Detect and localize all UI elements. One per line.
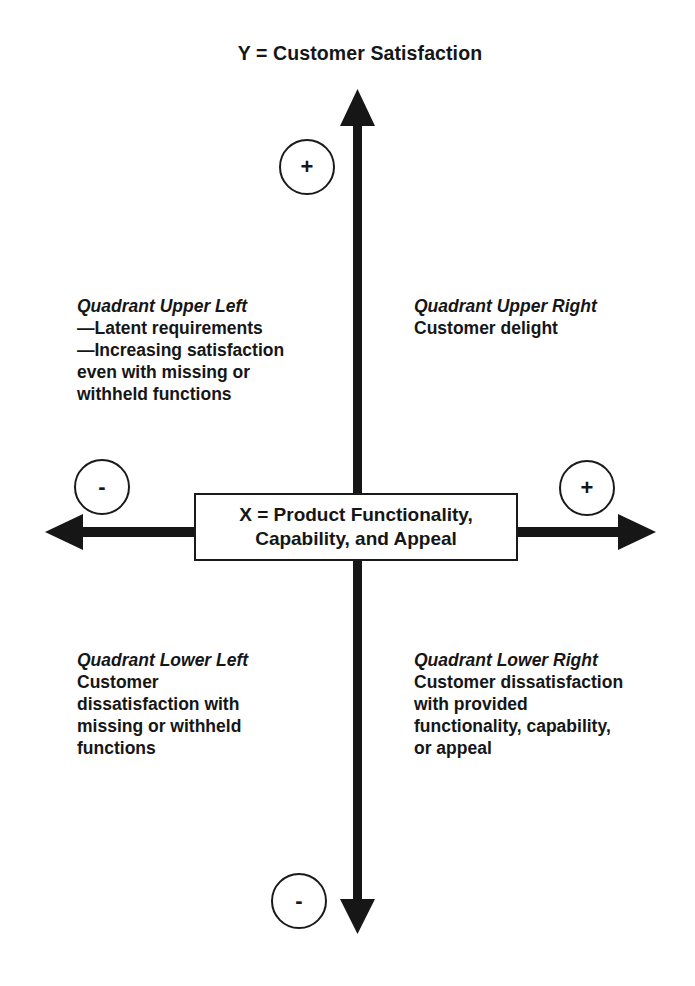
minus-sign-left-icon: - [74,459,130,515]
quadrant-lower-left-line: functions [77,737,248,759]
quadrant-upper-left-line: —Increasing satisfaction [77,339,284,361]
quadrant-upper-right-title: Quadrant Upper Right [414,295,597,317]
quadrant-lower-left-line: missing or withheld [77,715,248,737]
quadrant-lower-left-line: dissatisfaction with [77,693,248,715]
quadrant-lower-right-line: functionality, capability, [414,715,623,737]
quadrant-lower-left-line: Customer [77,671,248,693]
minus-sign-bottom-icon: - [271,873,327,929]
x-axis-right-arrow-icon [618,514,656,550]
quadrant-upper-left-title: Quadrant Upper Left [77,295,284,317]
quadrant-upper-right: Quadrant Upper Right Customer delight [414,295,597,339]
plus-sign-right-icon: + [559,460,615,516]
sign-bottom-label: - [295,888,302,914]
quadrant-upper-left-line: withheld functions [77,383,284,405]
quadrant-upper-left: Quadrant Upper Left —Latent requirements… [77,295,284,405]
quadrant-upper-left-line: even with missing or [77,361,284,383]
quadrant-lower-left: Quadrant Lower Left Customer dissatisfac… [77,649,248,759]
quadrant-lower-left-title: Quadrant Lower Left [77,649,248,671]
y-axis-title: Y = Customer Satisfaction [0,42,695,65]
y-axis-up-arrow-icon [340,89,375,126]
sign-right-label: + [581,475,594,501]
x-axis-label-line-1: X = Product Functionality, [239,503,472,527]
y-axis-down-arrow-icon [340,899,375,934]
quadrant-lower-right-line: or appeal [414,737,623,759]
quadrant-lower-right-title: Quadrant Lower Right [414,649,623,671]
sign-top-label: + [301,154,314,180]
x-axis-label-box: X = Product Functionality, Capability, a… [194,493,518,561]
quadrant-upper-right-line: Customer delight [414,317,597,339]
quadrant-lower-right-line: with provided [414,693,623,715]
x-axis-label-line-2: Capability, and Appeal [239,527,472,551]
sign-left-label: - [98,474,105,500]
quadrant-lower-right: Quadrant Lower Right Customer dissatisfa… [414,649,623,759]
x-axis-left-arrow-icon [45,514,83,550]
quadrant-lower-right-line: Customer dissatisfaction [414,671,623,693]
quadrant-upper-left-line: —Latent requirements [77,317,284,339]
plus-sign-top-icon: + [279,139,335,195]
